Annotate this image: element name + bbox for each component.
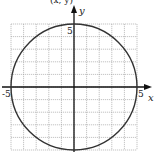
circle-graph: (x, y) x y -5 5 5: [0, 0, 157, 152]
axes: [2, 5, 152, 152]
y-max-tick-label: 5: [67, 26, 73, 36]
x-max-tick-label: 5: [138, 89, 144, 99]
x-axis-arrow-icon: [144, 84, 152, 90]
x-min-tick-label: -5: [2, 89, 11, 99]
y-axis-arrow-icon: [71, 5, 77, 13]
x-axis-label: x: [148, 92, 154, 103]
y-axis-label: y: [78, 5, 85, 16]
top-cut-caption: (x, y): [50, 0, 73, 5]
